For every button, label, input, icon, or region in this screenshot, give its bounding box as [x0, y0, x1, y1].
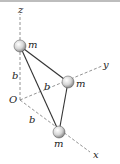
mass-y-label: m [76, 78, 85, 89]
dimension-x-b: b [29, 114, 35, 125]
mass-z-label: m [28, 39, 37, 50]
dimension-y-b: b [44, 81, 50, 92]
y-axis [20, 66, 102, 100]
rigid-body-diagram: z y x O m m m b b b [0, 0, 120, 164]
dimension-z-b: b [12, 70, 18, 81]
mass-x-sphere [53, 126, 65, 138]
mass-x-label: m [54, 138, 63, 149]
rod-z-x [20, 46, 59, 132]
origin-label: O [9, 94, 17, 105]
z-axis-label: z [17, 4, 24, 15]
x-axis-label: x [93, 149, 99, 160]
rod-z-y [20, 46, 68, 82]
mass-y-sphere [62, 76, 74, 88]
rod-y-x [59, 82, 68, 132]
mass-z-sphere [14, 40, 26, 52]
y-axis-label: y [102, 59, 109, 70]
